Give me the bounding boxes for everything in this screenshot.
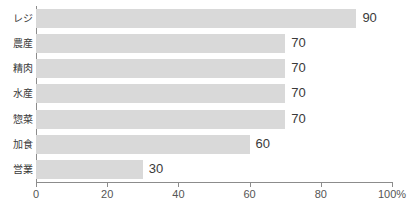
bar [36, 34, 285, 53]
bar-value-label: 70 [291, 108, 305, 130]
bar [36, 59, 285, 78]
bar-value-label: 30 [149, 158, 163, 180]
bar-row: 70 [36, 56, 392, 81]
category-label: レジ [0, 6, 33, 31]
bar [36, 135, 250, 154]
x-tick-label: 40 [172, 188, 184, 200]
bar-value-label: 90 [362, 7, 376, 29]
bar-row: 70 [36, 107, 392, 132]
bar [36, 84, 285, 103]
bar [36, 9, 356, 28]
x-tick-mark [321, 182, 322, 187]
bar-row: 70 [36, 31, 392, 56]
y-axis-category-labels: レジ農産精肉水産惣菜加食営業 [0, 6, 33, 182]
x-tick-label: 60 [243, 188, 255, 200]
x-axis-line [36, 182, 393, 183]
bar [36, 160, 143, 179]
bar-row: 60 [36, 132, 392, 157]
x-tick-label: 100% [378, 188, 406, 200]
bar-chart: レジ農産精肉水産惣菜加食営業 90707070706030 0204060801… [0, 0, 418, 208]
category-label: 精肉 [0, 56, 33, 81]
category-label: 水産 [0, 81, 33, 106]
x-tick-mark [178, 182, 179, 187]
x-tick-mark [36, 182, 37, 187]
x-tick-mark [107, 182, 108, 187]
x-tick-mark [250, 182, 251, 187]
plot-area: 90707070706030 [36, 6, 392, 182]
bar-value-label: 70 [291, 82, 305, 104]
bar-row: 90 [36, 6, 392, 31]
bar-row: 30 [36, 157, 392, 182]
bar-value-label: 70 [291, 57, 305, 79]
bar [36, 110, 285, 129]
category-label: 加食 [0, 132, 33, 157]
category-label: 営業 [0, 157, 33, 182]
x-tick-label: 0 [33, 188, 39, 200]
x-tick-label: 20 [101, 188, 113, 200]
category-label: 惣菜 [0, 107, 33, 132]
x-tick-label: 80 [315, 188, 327, 200]
x-tick-mark [392, 182, 393, 187]
category-label: 農産 [0, 31, 33, 56]
bar-row: 70 [36, 81, 392, 106]
bar-value-label: 70 [291, 32, 305, 54]
bar-value-label: 60 [256, 133, 270, 155]
